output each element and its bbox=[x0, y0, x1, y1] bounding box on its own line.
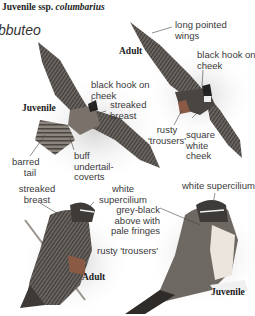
label-rusty-trousers-adult-flight: rusty 'trousers' bbox=[147, 125, 187, 146]
label-line: black hook on bbox=[91, 80, 150, 91]
field-guide-page: Juvenile ssp. columbarius bbuteo bbox=[0, 0, 255, 316]
label-line: grey-black bbox=[108, 205, 160, 216]
label-buff-undertail-coverts: buff undertail- coverts bbox=[74, 151, 114, 183]
label-barred-tail: barred tail bbox=[12, 157, 36, 178]
label-line: streaked bbox=[16, 184, 58, 195]
label-line: buff bbox=[74, 151, 114, 162]
label-line: cheek bbox=[186, 151, 215, 162]
age-label-juvenile-flight: Juvenile bbox=[22, 103, 56, 113]
label-line: breast bbox=[16, 195, 58, 206]
label-grey-black-above: grey-black above with pale fringes bbox=[108, 205, 160, 237]
label-white-supercilium-juvenile: white supercilium bbox=[182, 181, 255, 192]
label-line: pale fringes bbox=[108, 226, 160, 237]
label-long-pointed-wings: long pointed wings bbox=[175, 20, 227, 41]
label-line: long pointed bbox=[175, 20, 227, 31]
label-line: rusty bbox=[147, 125, 187, 136]
label-line: streaked bbox=[110, 100, 146, 111]
label-line: barred bbox=[12, 157, 36, 168]
label-line: cheek bbox=[197, 61, 255, 72]
label-square-white-cheek: square white cheek bbox=[186, 130, 215, 162]
label-white-supercilium-adult: white supercilium bbox=[97, 184, 149, 205]
label-line: square bbox=[186, 130, 215, 141]
label-streaked-breast-adult: streaked breast bbox=[16, 184, 58, 205]
label-line: black hook on bbox=[197, 50, 255, 61]
label-line: coverts bbox=[74, 172, 114, 183]
label-line: tail bbox=[12, 168, 36, 179]
label-black-hook-adult: black hook on cheek bbox=[197, 50, 255, 71]
label-rusty-trousers-adult-perched: rusty 'trousers' bbox=[97, 246, 158, 257]
age-label-adult-perched: Adult bbox=[82, 272, 105, 282]
label-line: wings bbox=[175, 31, 227, 42]
label-line: breast bbox=[110, 111, 146, 122]
age-label-adult-flight: Adult bbox=[119, 46, 142, 56]
label-line: white bbox=[97, 184, 149, 195]
label-streaked-breast-juvenile: streaked breast bbox=[110, 100, 146, 121]
age-label-juvenile-perched: Juvenile bbox=[211, 287, 245, 297]
label-black-hook-juvenile: black hook on cheek bbox=[91, 80, 150, 101]
label-line: 'trousers' bbox=[147, 136, 187, 147]
